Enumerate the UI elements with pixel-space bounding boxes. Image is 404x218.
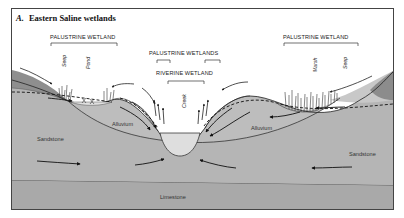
marsh-label: Marsh — [312, 57, 318, 72]
sandstone-right-label: Sandstone — [349, 151, 376, 157]
riverine-wetland-label: RIVERINE WETLAND — [156, 70, 213, 76]
creek-label: Creek — [181, 94, 187, 108]
palustrine-wetlands-center-label: PALUSTRINE WETLANDS — [149, 50, 218, 56]
seep-right-label: Seep — [342, 57, 348, 69]
alluvium-left-label: Alluvium — [112, 121, 133, 127]
limestone-label: Limestone — [160, 194, 186, 200]
wetland-cross-section-diagram: A. Eastern Saline wetlands PALUSTRINE WE… — [0, 0, 404, 218]
palustrine-wetland-right-label: PALUSTRINE WETLAND — [283, 34, 348, 40]
alluvium-right-label: Alluvium — [251, 125, 272, 131]
seep-left-label: Seep — [61, 55, 67, 67]
figure-title: A. Eastern Saline wetlands — [15, 13, 117, 23]
pond-label: Pond — [85, 56, 91, 69]
palustrine-wetland-left-label: PALUSTRINE WETLAND — [50, 34, 115, 40]
sandstone-left-label: Sandstone — [37, 136, 64, 142]
